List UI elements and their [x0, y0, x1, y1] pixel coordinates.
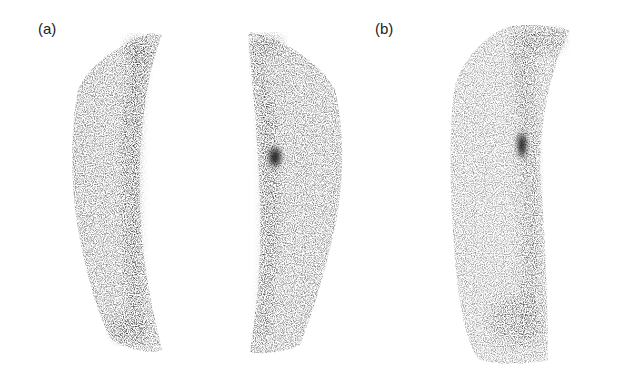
panel-a-focal-uptake: [267, 145, 283, 169]
scintigraphy-figure: [0, 0, 643, 383]
panel-b-focal-uptake: [516, 130, 528, 160]
panel-a-right-leg: [248, 32, 342, 353]
panel-a-left-leg: [72, 33, 162, 352]
panel-b-leg: [450, 25, 570, 364]
